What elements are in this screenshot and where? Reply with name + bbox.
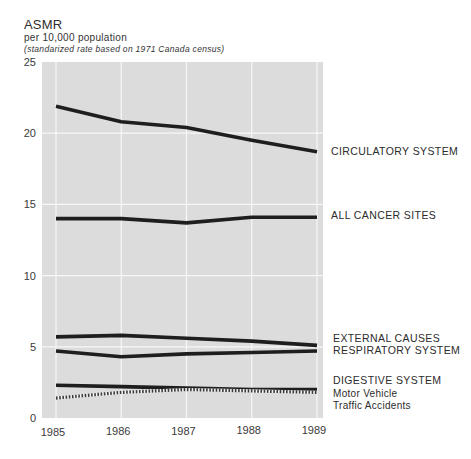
y-tick-label: 5 [30, 341, 36, 353]
y-tick-label: 10 [24, 270, 36, 282]
label-external-causes: EXTERNAL CAUSES [333, 332, 440, 344]
x-tick-label: 1987 [171, 425, 195, 437]
plot-area [42, 62, 323, 418]
label-all-cancer-sites: ALL CANCER SITES [331, 209, 436, 221]
x-tick-label: 1988 [237, 424, 261, 436]
label-respiratory-system: RESPIRATORY SYSTEM [333, 344, 460, 356]
x-tick-label: 1986 [106, 425, 130, 437]
y-tick-label: 20 [24, 127, 36, 139]
x-tick-label: 1989 [302, 424, 326, 436]
x-tick-label: 1985 [41, 426, 65, 438]
y-axis: 0510152025 [24, 56, 36, 424]
label-circulatory-system: CIRCULATORY SYSTEM [331, 145, 458, 157]
y-tick-label: 0 [30, 412, 36, 424]
label-traffic-accidents: Traffic Accidents [333, 400, 411, 411]
y-tick-label: 25 [24, 56, 36, 68]
label-motor-vehicle: Motor Vehicle [333, 388, 398, 399]
label-digestive-system: DIGESTIVE SYSTEM [333, 374, 442, 386]
series-labels: CIRCULATORY SYSTEM ALL CANCER SITES EXTE… [331, 145, 460, 411]
y-tick-label: 15 [24, 198, 36, 210]
x-axis: 19851986198719881989 [41, 424, 326, 438]
line-chart: 0510152025 19851986198719881989 CIRCULAT… [0, 0, 471, 459]
